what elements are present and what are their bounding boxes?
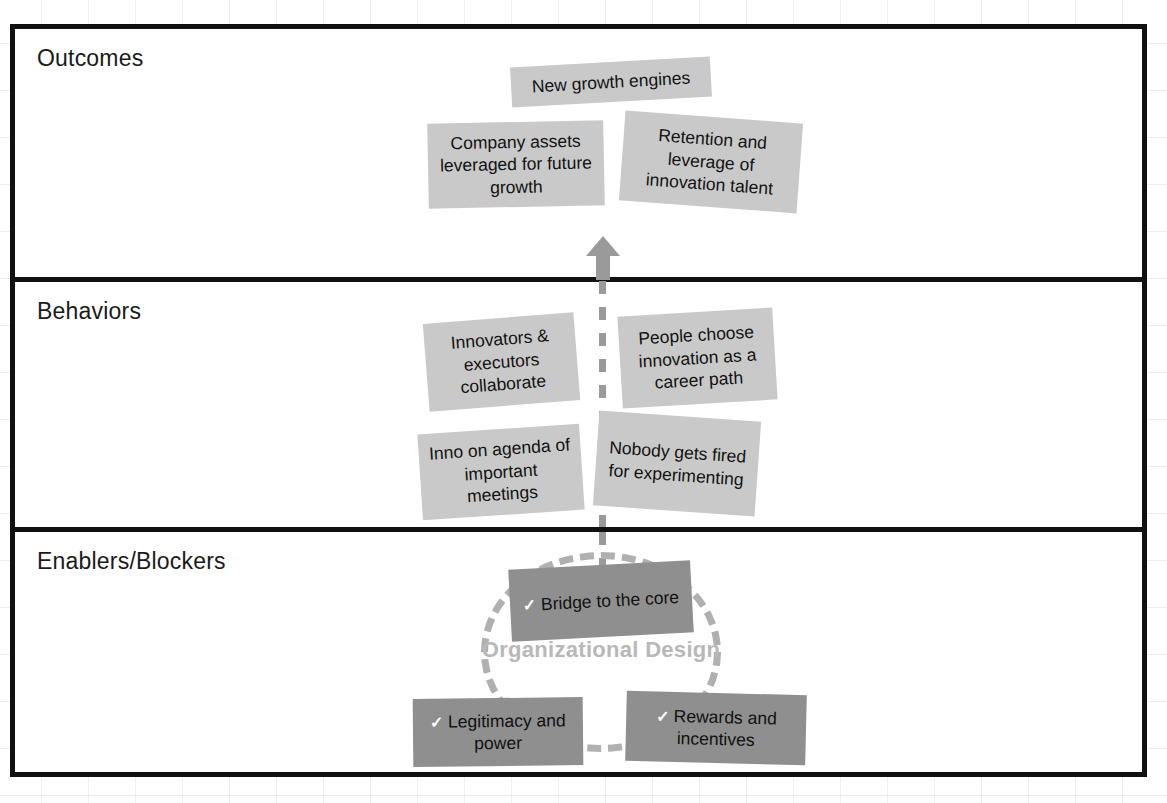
behavior-card-nobody-fired[interactable]: Nobody gets fired for experimenting (593, 410, 761, 516)
check-icon: ✓ (656, 707, 669, 724)
enabler-card-rewards-incentives[interactable]: ✓Rewards and incentives (625, 691, 807, 765)
behavior-card-text: People choose innovation as a career pat… (627, 320, 768, 395)
band-enablers: Enablers/Blockers Organizational Design … (15, 527, 1142, 772)
enabler-card-text: Rewards and incentives (673, 706, 777, 750)
framework-diagram-frame: Outcomes New growth engines Company asse… (10, 24, 1147, 777)
outcome-card-text: Company assets leveraged for future grow… (436, 129, 595, 199)
behavior-card-text: Inno on agenda of important meetings (427, 434, 575, 511)
check-icon: ✓ (430, 713, 443, 730)
band-outcomes: Outcomes New growth engines Company asse… (15, 29, 1142, 277)
outcome-card-text: Retention and leverage of innovation tal… (629, 123, 793, 202)
check-icon: ✓ (523, 596, 537, 614)
behavior-card-innovators-executors[interactable]: Innovators & executors collaborate (423, 312, 580, 412)
organizational-design-label: Organizational Design (471, 636, 731, 665)
enabler-card-legitimacy-power[interactable]: ✓Legitimacy and power (413, 697, 584, 767)
behavior-card-text: Nobody gets fired for experimenting (604, 436, 751, 491)
band-label-outcomes: Outcomes (37, 45, 143, 72)
outcome-card-new-growth-engines[interactable]: New growth engines (510, 56, 712, 107)
band-label-behaviors: Behaviors (37, 298, 141, 325)
behavior-card-career-path[interactable]: People choose innovation as a career pat… (617, 307, 777, 408)
upward-arrow-icon (583, 234, 623, 282)
behavior-card-inno-agenda[interactable]: Inno on agenda of important meetings (417, 424, 584, 521)
outcome-card-text: New growth engines (531, 66, 691, 97)
enabler-card-text: Legitimacy and power (448, 710, 566, 753)
enabler-card-bridge-to-core[interactable]: ✓Bridge to the core (508, 560, 694, 641)
band-label-enablers: Enablers/Blockers (37, 548, 226, 575)
behavior-card-text: Innovators & executors collaborate (433, 323, 571, 400)
enabler-card-text: Bridge to the core (540, 587, 679, 614)
band-behaviors: Behaviors Innovators & executors collabo… (15, 277, 1142, 527)
outcome-card-retention-talent[interactable]: Retention and leverage of innovation tal… (619, 111, 803, 214)
outcome-card-company-assets[interactable]: Company assets leveraged for future grow… (427, 120, 605, 208)
